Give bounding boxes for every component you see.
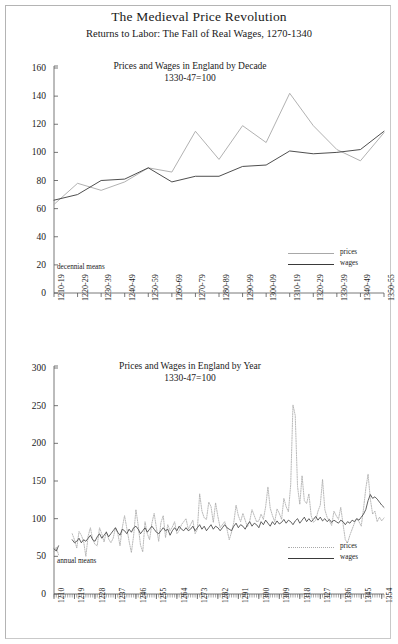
chart-annual-note: annual means <box>57 557 96 565</box>
legend-swatch-wages <box>288 264 334 265</box>
x-tick-label: 1354 <box>385 588 394 603</box>
x-tick-label: 1210 <box>57 588 66 603</box>
chart-annual: Prices and Wages in England by Year 1330… <box>0 358 398 644</box>
x-tick-label: 1309 <box>282 588 291 603</box>
x-tick-label: 1318 <box>303 588 312 603</box>
x-tick-label: 1330-39 <box>340 274 349 301</box>
y-tick-label: 60 <box>12 204 46 214</box>
x-tick-label: 1310-19 <box>293 274 302 301</box>
x-tick-label: 1345 <box>364 588 373 603</box>
x-tick-label: 1246 <box>139 588 148 603</box>
y-tick-label: 140 <box>12 91 46 101</box>
legend-swatch-prices <box>288 253 334 254</box>
y-tick-label: 250 <box>12 401 46 411</box>
page-subtitle: Returns to Labor: The Fall of Real Wages… <box>0 28 398 39</box>
y-tick-label: 50 <box>12 551 46 561</box>
x-tick-label: 1237 <box>118 588 127 603</box>
legend-swatch-wages <box>288 558 334 559</box>
x-tick-label: 1260-69 <box>175 274 184 301</box>
page-title: The Medieval Price Revolution <box>0 9 398 25</box>
x-tick-label: 1327 <box>323 588 332 603</box>
y-tick-label: 300 <box>12 363 46 373</box>
legend-swatch-prices <box>288 547 334 548</box>
document-page: The Medieval Price Revolution Returns to… <box>0 0 398 644</box>
chart-decade: Prices and Wages in England by Decade 13… <box>0 58 398 348</box>
x-tick-label: 1282 <box>221 588 230 603</box>
y-tick-label: 40 <box>12 232 46 242</box>
legend-label-wages: wages <box>340 553 358 561</box>
x-tick-label: 1255 <box>159 588 168 603</box>
x-tick-label: 1210-19 <box>57 274 66 301</box>
x-tick-label: 1240-49 <box>128 274 137 301</box>
y-tick-label: 100 <box>12 147 46 157</box>
x-tick-label: 1300 <box>262 588 271 603</box>
y-tick-label: 80 <box>12 176 46 186</box>
x-tick-label: 1220-29 <box>81 274 90 301</box>
x-tick-label: 1228 <box>98 588 107 603</box>
chart-decade-plot <box>0 58 398 348</box>
x-tick-label: 1280-89 <box>222 274 231 301</box>
y-tick-label: 160 <box>12 63 46 73</box>
x-tick-label: 1273 <box>200 588 209 603</box>
x-tick-label: 1290-99 <box>246 274 255 301</box>
legend-label-prices: prices <box>340 248 357 256</box>
x-tick-label: 1219 <box>77 588 86 603</box>
legend-label-prices: prices <box>340 542 357 550</box>
legend-label-wages: wages <box>340 259 358 267</box>
x-tick-label: 1336 <box>344 588 353 603</box>
x-tick-label: 1264 <box>180 588 189 603</box>
x-tick-label: 1340-49 <box>363 274 372 301</box>
y-tick-label: 0 <box>12 589 46 599</box>
chart-decade-svg <box>0 58 398 348</box>
y-tick-label: 150 <box>12 476 46 486</box>
y-tick-label: 200 <box>12 438 46 448</box>
y-tick-label: 120 <box>12 119 46 129</box>
y-tick-label: 0 <box>12 288 46 298</box>
chart-decade-note: decennial means <box>57 263 105 271</box>
x-tick-label: 1320-29 <box>316 274 325 301</box>
x-tick-label: 1230-39 <box>104 274 113 301</box>
x-tick-label: 1300-09 <box>269 274 278 301</box>
x-tick-label: 1291 <box>241 588 250 603</box>
x-tick-label: 1250-59 <box>151 274 160 301</box>
x-tick-label: 1270-79 <box>198 274 207 301</box>
x-tick-label: 1350-55 <box>387 274 396 301</box>
y-tick-label: 100 <box>12 514 46 524</box>
y-tick-label: 20 <box>12 260 46 270</box>
